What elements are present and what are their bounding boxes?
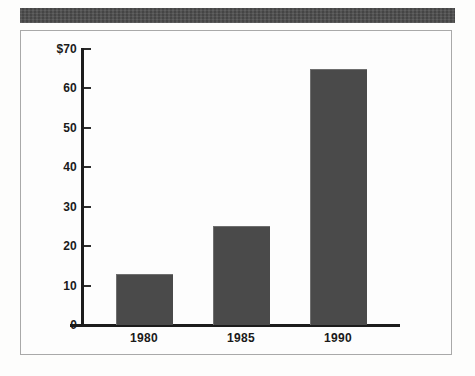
y-tick-mark xyxy=(84,166,91,168)
y-tick-label-wrap: 60 xyxy=(21,82,77,94)
y-tick-label: 20 xyxy=(35,240,77,252)
chart-frame: 0102030405060$70 198019851990 xyxy=(20,30,452,355)
bar xyxy=(116,274,173,325)
y-tick-label-wrap: 10 xyxy=(21,280,77,292)
y-tick-label-wrap: 30 xyxy=(21,201,77,213)
y-tick-label-wrap: 0 xyxy=(21,319,77,331)
y-tick-label-wrap: 20 xyxy=(21,240,77,252)
chart-page: 0102030405060$70 198019851990 xyxy=(0,0,475,376)
y-tick-label: 0 xyxy=(35,319,77,331)
x-axis-category-label: 1990 xyxy=(298,332,378,344)
header-band xyxy=(20,8,455,23)
y-tick-label: $70 xyxy=(35,43,77,55)
y-tick-mark xyxy=(84,127,91,129)
y-tick-label: 60 xyxy=(35,82,77,94)
y-tick-mark xyxy=(84,245,91,247)
y-tick-mark xyxy=(84,87,91,89)
x-axis-category-label: 1980 xyxy=(104,332,184,344)
y-tick-label: 50 xyxy=(35,122,77,134)
bar xyxy=(213,226,270,325)
y-tick-label-wrap: 40 xyxy=(21,161,77,173)
y-tick-label: 30 xyxy=(35,201,77,213)
y-tick-mark xyxy=(84,48,91,50)
y-tick-mark xyxy=(84,206,91,208)
x-axis-category-label: 1985 xyxy=(201,332,281,344)
bar xyxy=(310,69,367,325)
y-tick-mark xyxy=(84,285,91,287)
y-tick-label-wrap: 50 xyxy=(21,122,77,134)
y-tick-label-wrap: $70 xyxy=(21,43,77,55)
y-tick-label: 10 xyxy=(35,280,77,292)
plot-area: 0102030405060$70 198019851990 xyxy=(21,31,453,356)
y-tick-label: 40 xyxy=(35,161,77,173)
